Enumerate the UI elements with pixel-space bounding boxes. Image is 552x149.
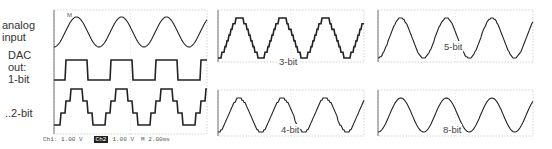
timebase: M 2.00ms xyxy=(141,136,170,143)
oscilloscope-traces: M xyxy=(0,0,552,149)
panel-label-5bit: 5-bit xyxy=(443,41,463,52)
panel-label-3bit: 3-bit xyxy=(278,56,298,67)
svg-text:M: M xyxy=(67,12,72,18)
ch2-indicator: Ch2 xyxy=(94,136,109,143)
panel-label-8bit: 8-bit xyxy=(442,124,462,135)
ch1-scale: Ch1: 1.00 V xyxy=(43,136,83,143)
scope-status-bar: Ch1: 1.00 VCh21.00 VM 2.00ms xyxy=(43,136,177,143)
ch2-scale: 1.00 V xyxy=(112,136,134,143)
panel-label-4bit: 4-bit xyxy=(280,124,300,135)
